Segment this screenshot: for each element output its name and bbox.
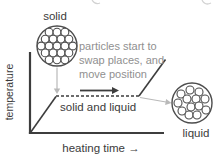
liquid-particle (201, 95, 209, 103)
liquid-particle (174, 99, 182, 107)
diagram-canvas: solid particles start to swap places, an… (0, 0, 221, 165)
heating-curve-diagram: solid particles start to swap places, an… (0, 0, 221, 165)
liquid-particle (185, 111, 193, 119)
annotation-line-1: particles start to (79, 40, 157, 52)
cropped-text-fragment (92, 0, 100, 4)
annotation-line-3: move position (79, 68, 147, 80)
temperature-axis-label: temperature (3, 64, 15, 121)
solid-particle (61, 56, 69, 64)
connector-arrow-solid (54, 68, 60, 95)
liquid-particle (183, 95, 191, 103)
liquid-particle (193, 111, 201, 119)
solid-particle (53, 56, 61, 64)
liquid-particle (202, 106, 210, 114)
solid-particle (45, 56, 53, 64)
curve-rising-segment-1 (31, 97, 57, 133)
solid-particle-group (37, 26, 77, 66)
solid-and-liquid-label: solid and liquid (60, 101, 136, 113)
liquid-particle (187, 103, 195, 111)
rightward-arrow-icon (80, 87, 119, 94)
solid-label: solid (43, 10, 67, 22)
annotation-line-2: swap places, and (79, 54, 164, 66)
cropped-text-fragment (202, 0, 211, 4)
heating-time-axis-label: heating time → (62, 142, 139, 154)
liquid-particle-group (172, 83, 212, 123)
liquid-particle (186, 86, 194, 94)
liquid-label: liquid (183, 127, 210, 139)
connector-arrow-liquid (140, 98, 172, 106)
